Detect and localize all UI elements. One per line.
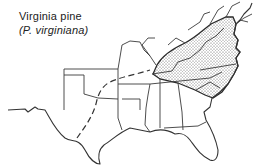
range-area [153,17,240,98]
range-map-figure: Virginia pine (P. virginiana) [0,0,266,166]
us-east-map [0,0,266,166]
range-boundary-dashed [77,70,150,138]
